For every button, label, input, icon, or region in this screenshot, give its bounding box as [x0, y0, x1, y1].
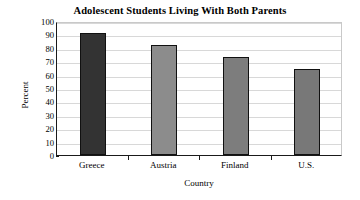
x-axis-tick-label: Greece: [79, 160, 104, 170]
y-axis-tick-label: 100: [32, 18, 54, 27]
y-axis-tick-label: 90: [32, 31, 54, 40]
chart-figure: Adolescent Students Living With Both Par…: [0, 0, 360, 200]
y-axis-tick-label: 30: [32, 112, 54, 121]
y-axis-tick-label: 10: [32, 138, 54, 147]
x-axis-tick-labels: GreeceAustriaFinlandU.S.: [56, 160, 342, 174]
chart-title: Adolescent Students Living With Both Par…: [0, 5, 360, 16]
bar: [80, 33, 106, 155]
bar: [294, 69, 320, 155]
y-axis-tick-labels: 0102030405060708090100: [28, 22, 54, 156]
x-axis-tick-label: U.S.: [298, 160, 314, 170]
y-axis-tick-label: 70: [32, 58, 54, 67]
y-axis-tick-label: 80: [32, 45, 54, 54]
bar: [223, 57, 249, 155]
y-axis-tick-label: 50: [32, 85, 54, 94]
x-axis-title: Country: [56, 178, 342, 188]
gridline: [57, 23, 341, 24]
bar: [151, 45, 177, 155]
x-axis-tick-label: Finland: [221, 160, 249, 170]
y-axis-tick-label: 60: [32, 71, 54, 80]
y-axis-tick-label: 0: [32, 152, 54, 161]
y-axis-tick-label: 20: [32, 125, 54, 134]
y-axis-tick-label: 40: [32, 98, 54, 107]
x-axis-tick-label: Austria: [150, 160, 177, 170]
plot-area: [56, 22, 342, 156]
